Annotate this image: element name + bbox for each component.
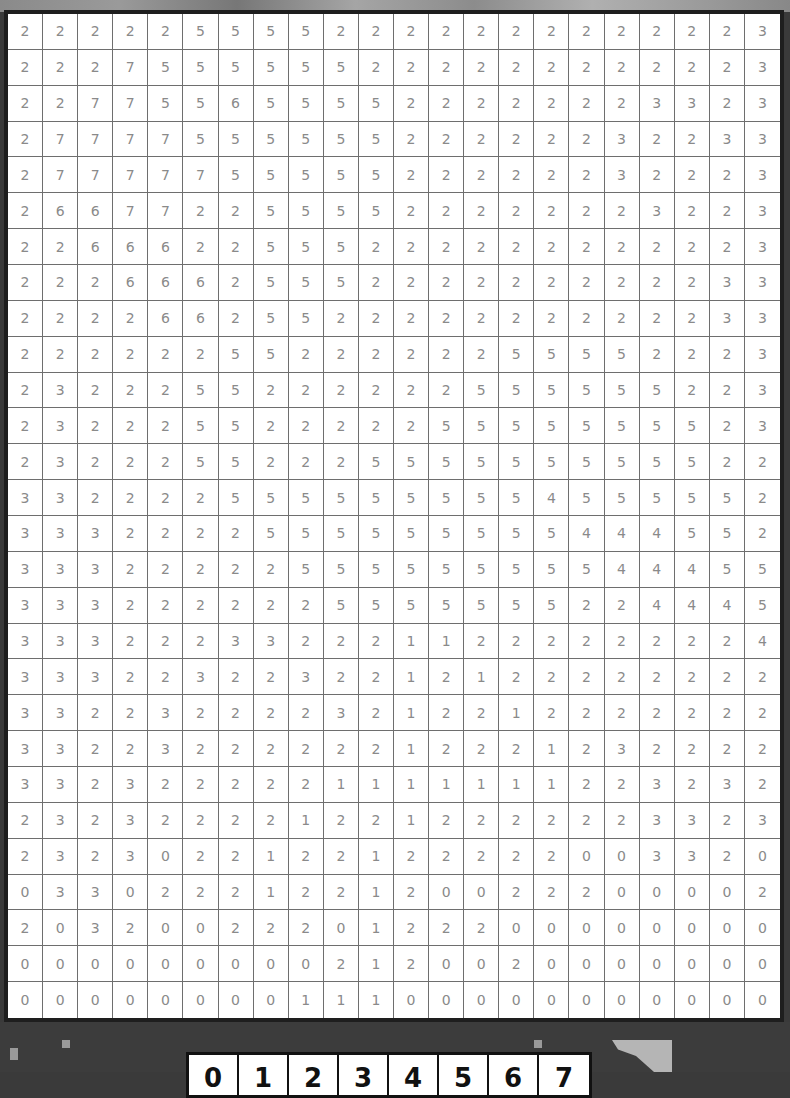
grid-cell[interactable]: 2 <box>745 875 780 911</box>
grid-cell[interactable]: 3 <box>745 157 780 193</box>
grid-cell[interactable]: 2 <box>710 14 745 50</box>
grid-cell[interactable]: 2 <box>534 875 569 911</box>
grid-cell[interactable]: 2 <box>394 910 429 946</box>
grid-cell[interactable]: 2 <box>569 86 604 122</box>
grid-cell[interactable]: 5 <box>219 157 254 193</box>
grid-cell[interactable]: 2 <box>219 193 254 229</box>
grid-cell[interactable]: 2 <box>464 229 499 265</box>
grid-cell[interactable]: 7 <box>113 157 148 193</box>
grid-cell[interactable]: 2 <box>464 14 499 50</box>
grid-cell[interactable]: 3 <box>78 588 113 624</box>
grid-cell[interactable]: 2 <box>113 695 148 731</box>
grid-cell[interactable]: 0 <box>78 946 113 982</box>
palette-swatch-2[interactable]: 2 <box>289 1055 339 1095</box>
grid-cell[interactable]: 2 <box>569 659 604 695</box>
grid-cell[interactable]: 2 <box>254 659 289 695</box>
grid-cell[interactable]: 0 <box>675 910 710 946</box>
grid-cell[interactable]: 2 <box>675 767 710 803</box>
grid-cell[interactable]: 5 <box>499 552 534 588</box>
grid-cell[interactable]: 0 <box>640 875 675 911</box>
grid-cell[interactable]: 3 <box>745 14 780 50</box>
grid-cell[interactable]: 3 <box>640 803 675 839</box>
grid-cell[interactable]: 2 <box>113 552 148 588</box>
grid-cell[interactable]: 2 <box>324 803 359 839</box>
palette-swatch-3[interactable]: 3 <box>339 1055 389 1095</box>
grid-cell[interactable]: 2 <box>499 946 534 982</box>
grid-cell[interactable]: 5 <box>464 552 499 588</box>
grid-cell[interactable]: 4 <box>640 588 675 624</box>
grid-cell[interactable]: 2 <box>534 193 569 229</box>
grid-cell[interactable]: 1 <box>289 803 324 839</box>
grid-cell[interactable]: 1 <box>499 695 534 731</box>
grid-cell[interactable]: 1 <box>254 875 289 911</box>
grid-cell[interactable]: 5 <box>569 480 604 516</box>
grid-cell[interactable]: 0 <box>183 946 218 982</box>
grid-cell[interactable]: 5 <box>183 122 218 158</box>
grid-cell[interactable]: 5 <box>359 86 394 122</box>
grid-cell[interactable]: 2 <box>359 624 394 660</box>
grid-cell[interactable]: 2 <box>534 301 569 337</box>
grid-cell[interactable]: 2 <box>219 265 254 301</box>
grid-cell[interactable]: 2 <box>499 229 534 265</box>
grid-cell[interactable]: 2 <box>324 839 359 875</box>
grid-cell[interactable]: 0 <box>8 875 43 911</box>
grid-cell[interactable]: 5 <box>640 480 675 516</box>
grid-cell[interactable]: 5 <box>289 14 324 50</box>
grid-cell[interactable]: 2 <box>148 552 183 588</box>
grid-cell[interactable]: 2 <box>183 337 218 373</box>
grid-cell[interactable]: 2 <box>534 695 569 731</box>
grid-cell[interactable]: 0 <box>745 982 780 1018</box>
grid-cell[interactable]: 2 <box>148 516 183 552</box>
grid-cell[interactable]: 3 <box>640 839 675 875</box>
grid-cell[interactable]: 3 <box>710 122 745 158</box>
grid-cell[interactable]: 2 <box>499 659 534 695</box>
grid-cell[interactable]: 0 <box>745 910 780 946</box>
grid-cell[interactable]: 5 <box>324 516 359 552</box>
grid-cell[interactable]: 5 <box>289 516 324 552</box>
grid-cell[interactable]: 5 <box>429 408 464 444</box>
grid-cell[interactable]: 2 <box>464 731 499 767</box>
grid-cell[interactable]: 2 <box>605 301 640 337</box>
palette-swatch-7[interactable]: 7 <box>539 1055 589 1095</box>
grid-cell[interactable]: 5 <box>324 265 359 301</box>
grid-cell[interactable]: 2 <box>289 767 324 803</box>
grid-cell[interactable]: 0 <box>569 946 604 982</box>
grid-cell[interactable]: 2 <box>183 624 218 660</box>
grid-cell[interactable]: 6 <box>148 265 183 301</box>
grid-cell[interactable]: 0 <box>605 875 640 911</box>
grid-cell[interactable]: 2 <box>710 373 745 409</box>
grid-cell[interactable]: 5 <box>499 588 534 624</box>
grid-cell[interactable]: 2 <box>464 839 499 875</box>
grid-cell[interactable]: 0 <box>429 946 464 982</box>
grid-cell[interactable]: 2 <box>605 767 640 803</box>
grid-cell[interactable]: 0 <box>324 910 359 946</box>
grid-cell[interactable]: 2 <box>324 444 359 480</box>
grid-cell[interactable]: 5 <box>394 480 429 516</box>
grid-cell[interactable]: 0 <box>219 982 254 1018</box>
grid-cell[interactable]: 2 <box>324 337 359 373</box>
grid-cell[interactable]: 2 <box>8 229 43 265</box>
grid-cell[interactable]: 5 <box>183 14 218 50</box>
grid-cell[interactable]: 0 <box>745 946 780 982</box>
grid-cell[interactable]: 5 <box>745 588 780 624</box>
grid-cell[interactable]: 7 <box>113 122 148 158</box>
grid-cell[interactable]: 1 <box>394 803 429 839</box>
grid-cell[interactable]: 0 <box>640 910 675 946</box>
grid-cell[interactable]: 2 <box>605 14 640 50</box>
grid-cell[interactable]: 2 <box>640 265 675 301</box>
grid-cell[interactable]: 3 <box>8 552 43 588</box>
grid-cell[interactable]: 5 <box>359 444 394 480</box>
grid-cell[interactable]: 2 <box>148 588 183 624</box>
grid-cell[interactable]: 2 <box>640 157 675 193</box>
grid-cell[interactable]: 5 <box>183 408 218 444</box>
grid-cell[interactable]: 3 <box>8 731 43 767</box>
grid-cell[interactable]: 1 <box>464 659 499 695</box>
grid-cell[interactable]: 3 <box>324 695 359 731</box>
grid-cell[interactable]: 5 <box>183 444 218 480</box>
grid-cell[interactable]: 5 <box>569 373 604 409</box>
grid-cell[interactable]: 5 <box>254 229 289 265</box>
grid-cell[interactable]: 3 <box>710 767 745 803</box>
grid-cell[interactable]: 2 <box>113 444 148 480</box>
grid-cell[interactable]: 2 <box>148 373 183 409</box>
grid-cell[interactable]: 5 <box>359 193 394 229</box>
